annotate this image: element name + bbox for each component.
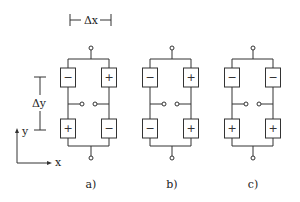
- top-terminal-icon: [89, 46, 93, 50]
- minus-sign-icon: −: [145, 122, 154, 135]
- bridge-diagram-a: −++−a): [61, 46, 117, 191]
- plus-sign-icon: +: [186, 122, 195, 135]
- cell-top-right: −: [266, 68, 281, 87]
- cell-top-left: −: [225, 68, 240, 87]
- cell-bottom-right: −: [102, 119, 117, 138]
- dy-label: Δy: [32, 97, 47, 110]
- right-mid-terminal-icon: [175, 102, 179, 106]
- cell-bottom-left: +: [225, 119, 240, 138]
- x-axis-label: x: [55, 156, 62, 169]
- right-mid-terminal-icon: [257, 102, 261, 106]
- cell-bottom-left: −: [143, 119, 158, 138]
- cell-top-right: +: [184, 68, 199, 87]
- left-mid-terminal-icon: [80, 102, 84, 106]
- bridge-diagrams: −++−a)−+−+b)−−++c): [61, 46, 281, 191]
- diagram-svg: Δx Δy y x −++−a)−+−+b)−−++c): [0, 0, 300, 202]
- y-arrow-icon: [15, 128, 19, 133]
- cell-top-left: −: [61, 68, 76, 87]
- cell-top-left: −: [143, 68, 158, 87]
- left-mid-terminal-icon: [162, 102, 166, 106]
- bridge-diagram-b: −+−+b): [143, 46, 199, 191]
- coordinate-axes: y x: [15, 125, 62, 169]
- right-mid-terminal-icon: [93, 102, 97, 106]
- cell-bottom-right: +: [184, 119, 199, 138]
- cell-bottom-left: +: [61, 119, 76, 138]
- cell-top-right: +: [102, 68, 117, 87]
- dx-label: Δx: [84, 14, 99, 27]
- plus-sign-icon: +: [186, 71, 195, 84]
- plus-sign-icon: +: [227, 122, 236, 135]
- top-terminal-icon: [170, 46, 174, 50]
- bridge-diagram-c: −−++c): [225, 46, 281, 191]
- bottom-terminal-icon: [89, 156, 93, 160]
- plus-sign-icon: +: [268, 122, 277, 135]
- minus-sign-icon: −: [145, 71, 154, 84]
- x-arrow-icon: [47, 161, 52, 165]
- minus-sign-icon: −: [63, 71, 72, 84]
- diagram-canvas: Δx Δy y x −++−a)−+−+b)−−++c): [0, 0, 300, 202]
- left-mid-terminal-icon: [244, 102, 248, 106]
- top-terminal-icon: [251, 46, 255, 50]
- diagram-label: b): [166, 178, 177, 191]
- minus-sign-icon: −: [227, 71, 236, 84]
- bottom-terminal-icon: [170, 156, 174, 160]
- minus-sign-icon: −: [268, 71, 277, 84]
- y-axis-label: y: [21, 125, 29, 138]
- plus-sign-icon: +: [104, 71, 113, 84]
- bottom-terminal-icon: [251, 156, 255, 160]
- diagram-label: a): [86, 178, 97, 191]
- cell-bottom-right: +: [266, 119, 281, 138]
- minus-sign-icon: −: [104, 122, 113, 135]
- dy-dimension: Δy: [32, 77, 47, 130]
- plus-sign-icon: +: [63, 122, 72, 135]
- diagram-label: c): [248, 178, 258, 191]
- dx-dimension: Δx: [70, 14, 111, 27]
